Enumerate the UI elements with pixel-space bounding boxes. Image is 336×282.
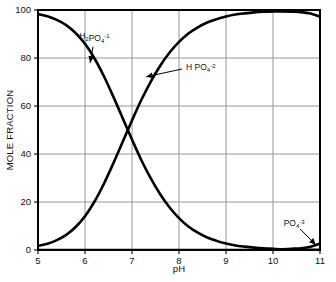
- y-tick-label: 0: [26, 244, 31, 255]
- x-tick-label: 5: [35, 255, 40, 266]
- chart-figure: 567891011020406080100 H2PO4-1H PO4-2PO4-…: [0, 0, 336, 282]
- y-tick-label: 20: [20, 196, 31, 207]
- x-axis-title: pH: [173, 263, 186, 274]
- x-tick-label: 7: [129, 255, 134, 266]
- speciation-chart: 567891011020406080100 H2PO4-1H PO4-2PO4-…: [0, 0, 336, 282]
- x-tick-label: 11: [315, 255, 325, 266]
- x-tick-label: 6: [82, 255, 87, 266]
- y-tick-label: 100: [15, 4, 31, 15]
- y-axis-title: MOLE FRACTION: [4, 90, 15, 171]
- y-tick-label: 40: [20, 148, 31, 159]
- y-tick-label: 60: [20, 100, 31, 111]
- y-tick-label: 80: [20, 52, 31, 63]
- x-tick-label: 10: [268, 255, 279, 266]
- x-tick-label: 9: [223, 255, 228, 266]
